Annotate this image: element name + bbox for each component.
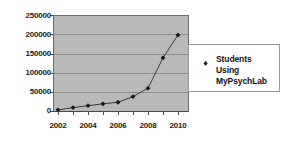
- data-point-2004: [86, 103, 91, 108]
- data-point-2008: [146, 86, 151, 91]
- legend-label-line-2: Using: [216, 65, 278, 76]
- data-point-2006: [116, 100, 121, 105]
- data-point-2005: [101, 101, 106, 106]
- chart-container: 250000 200000 150000 100000 50000 0 2002…: [0, 0, 287, 145]
- data-point-2007: [131, 94, 136, 99]
- legend-marker-icon: ♦: [202, 60, 209, 67]
- data-point-2003: [71, 105, 76, 110]
- legend-label-line-1: Students: [216, 54, 278, 65]
- legend-label-line-3: MyPsychLab: [216, 76, 278, 87]
- legend-label: Students Using MyPsychLab: [216, 54, 278, 87]
- data-point-2002: [56, 107, 61, 112]
